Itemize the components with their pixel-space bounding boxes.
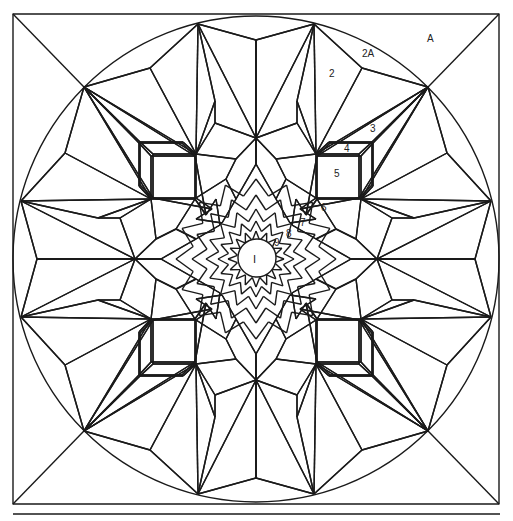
pattern-segment (198, 24, 256, 40)
pattern-segment (359, 142, 372, 154)
pattern-segment (151, 199, 156, 239)
pattern-segment (21, 300, 98, 317)
pattern-segment (196, 219, 222, 223)
pattern-segment (256, 380, 314, 494)
pattern-segment (198, 478, 256, 494)
label-center: I (253, 253, 256, 265)
pattern-segment (65, 319, 151, 365)
star-ray-segment (192, 259, 207, 269)
pattern-segment (356, 259, 377, 279)
pattern-segment (21, 201, 135, 259)
pattern-segment (21, 199, 151, 201)
star-ray-segment (262, 224, 271, 232)
pattern-segment (377, 201, 491, 259)
star-ray-segment (221, 224, 235, 228)
pattern-segment (361, 153, 447, 199)
star-ray-segment (220, 185, 225, 206)
star-ray-segment (218, 259, 229, 265)
pattern-segment (21, 317, 151, 319)
pattern-segment (21, 259, 135, 317)
star-ray-segment (279, 243, 291, 244)
label-piece-7: 7 (300, 217, 306, 228)
center-circle (238, 239, 276, 277)
pattern-segment (377, 259, 491, 317)
pattern-segment (336, 229, 356, 239)
pattern-segment (216, 293, 220, 319)
corner-diagonal (13, 431, 84, 504)
star-ray-segment (271, 282, 272, 294)
star-ray-segment (284, 245, 292, 254)
star-ray-segment (287, 312, 292, 333)
pattern-segment (226, 159, 236, 179)
pattern-segment (196, 24, 198, 154)
pattern-segment (196, 209, 212, 219)
star-ray-segment (293, 240, 302, 252)
pattern-segment (276, 159, 286, 179)
star-ray-segment (221, 274, 233, 275)
star-ray-segment (230, 263, 237, 270)
star-ray-segment (271, 224, 272, 236)
pattern-segment (196, 295, 222, 299)
star-ray-segment (260, 278, 267, 285)
pattern-segment (196, 364, 198, 494)
pattern-segment (256, 138, 276, 159)
pattern-segment (356, 279, 361, 319)
star-ray-segment (210, 266, 219, 278)
star-ray-segment (256, 287, 262, 298)
pattern-segment (356, 199, 361, 239)
pattern-segment (198, 380, 256, 494)
star-ray-segment (220, 312, 225, 333)
star-ray-segment (256, 209, 263, 222)
star-ray-segment (266, 200, 281, 210)
star-ray-segment (242, 224, 251, 232)
star-ray-segment (235, 213, 237, 228)
pattern-segment (156, 279, 176, 289)
label-piece-9: 9 (274, 237, 280, 248)
star-ray-segment (256, 308, 266, 323)
star-ray-segment (206, 252, 219, 259)
label-piece-5: 5 (334, 168, 340, 179)
star-ray-segment (249, 296, 256, 309)
star-ray-segment (287, 185, 292, 206)
star-ray-segment (293, 259, 306, 266)
pattern-segment (290, 295, 316, 299)
star-ray-segment (182, 223, 203, 228)
star-ray-segment (262, 287, 271, 295)
pattern-segment (216, 199, 220, 225)
star-ray-segment (288, 280, 292, 294)
pattern-segment (356, 239, 377, 259)
star-ray-segment (242, 287, 251, 295)
pattern-segment (276, 359, 316, 364)
star-ray-segment (305, 269, 315, 284)
pattern-segment (21, 201, 37, 259)
pattern-segment (361, 143, 373, 156)
star-ray-segment (284, 254, 295, 260)
star-ray-segment (235, 291, 237, 306)
star-ray-segment (182, 290, 203, 295)
star-ray-segment (309, 290, 330, 295)
label-piece-2: 2 (329, 68, 335, 79)
star-ray-segment (305, 249, 320, 259)
star-ray-segment (221, 224, 225, 238)
pattern-segment (292, 293, 296, 319)
pattern-segment (150, 364, 196, 450)
star-ray-segment (237, 213, 249, 222)
star-ray-segment (293, 266, 302, 278)
pattern-segment (236, 359, 256, 380)
star-ray-segment (288, 278, 303, 280)
pattern-segment (140, 142, 153, 154)
pattern-segment (196, 299, 212, 309)
star-ray-segment (251, 287, 257, 298)
star-ray-segment (232, 308, 247, 318)
pattern-segment (336, 279, 356, 289)
pattern-segment (296, 303, 306, 319)
star-ray-segment (305, 235, 315, 250)
star-ray-segment (245, 278, 252, 285)
star-ray-segment (251, 221, 257, 232)
pattern-segment (297, 417, 314, 494)
pattern-segment (139, 362, 151, 375)
star-ray-segment (230, 248, 237, 255)
star-ray-segment (252, 278, 256, 287)
star-ray-segment (240, 224, 241, 236)
label-piece-8: 8 (286, 228, 292, 239)
